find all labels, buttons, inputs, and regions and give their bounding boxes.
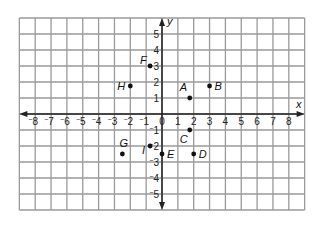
point-label: D xyxy=(199,148,207,160)
x-tick-label: 3 xyxy=(207,116,213,127)
x-axis-label: x xyxy=(295,98,302,110)
x-tick-label: 4 xyxy=(223,116,229,127)
point-label: B xyxy=(215,80,222,92)
x-tick-label: −3 xyxy=(108,116,118,127)
x-tick-label: 8 xyxy=(286,116,292,127)
y-tick-label: −5 xyxy=(149,189,159,200)
y-tick-label: 4 xyxy=(153,45,159,56)
point-label: G xyxy=(119,137,128,149)
axes xyxy=(19,18,304,210)
y-tick-label: −4 xyxy=(149,173,159,184)
point-dot xyxy=(148,144,153,149)
y-axis-label: y xyxy=(166,15,174,27)
point-dot xyxy=(128,84,133,89)
x-tick-label: −2 xyxy=(123,116,133,127)
y-tick-label: 2 xyxy=(153,77,159,88)
point-dot xyxy=(120,152,125,157)
y-tick-label: 1 xyxy=(153,93,159,104)
y-tick-label: 3 xyxy=(153,61,159,72)
y-tick-label: −3 xyxy=(149,157,159,168)
x-tick-label: 2 xyxy=(191,116,197,127)
x-tick-label: 7 xyxy=(270,116,276,127)
y-tick-label: 5 xyxy=(153,29,159,40)
x-tick-label: −6 xyxy=(60,116,70,127)
x-tick-label: −4 xyxy=(92,116,102,127)
point-dot xyxy=(148,64,153,69)
point-label: C xyxy=(180,133,188,145)
y-tick-label: −1 xyxy=(149,125,159,136)
x-tick-label: −1 xyxy=(139,116,149,127)
point-label: I xyxy=(142,144,145,156)
point-dot xyxy=(160,152,165,157)
point-label: F xyxy=(140,54,148,66)
point-dot xyxy=(207,84,212,89)
point-dot xyxy=(187,96,192,101)
point-label: H xyxy=(117,80,125,92)
point-g: G xyxy=(119,137,128,156)
x-tick-label: 0 xyxy=(159,116,165,127)
point-dot xyxy=(187,128,192,133)
point-dot xyxy=(191,152,196,157)
point-label: E xyxy=(167,148,175,160)
x-tick-label: 1 xyxy=(175,116,181,127)
coordinate-plane: −8−7−6−5−4−3−2−1012345678−5−4−3−2−112345… xyxy=(0,0,320,226)
x-tick-label: −7 xyxy=(44,116,54,127)
x-tick-label: 6 xyxy=(254,116,260,127)
x-tick-label: 5 xyxy=(238,116,244,127)
x-tick-label: −8 xyxy=(28,116,38,127)
x-tick-label: −5 xyxy=(76,116,86,127)
data-points: ABCDEFGHI xyxy=(117,54,222,160)
point-label: A xyxy=(179,81,187,93)
